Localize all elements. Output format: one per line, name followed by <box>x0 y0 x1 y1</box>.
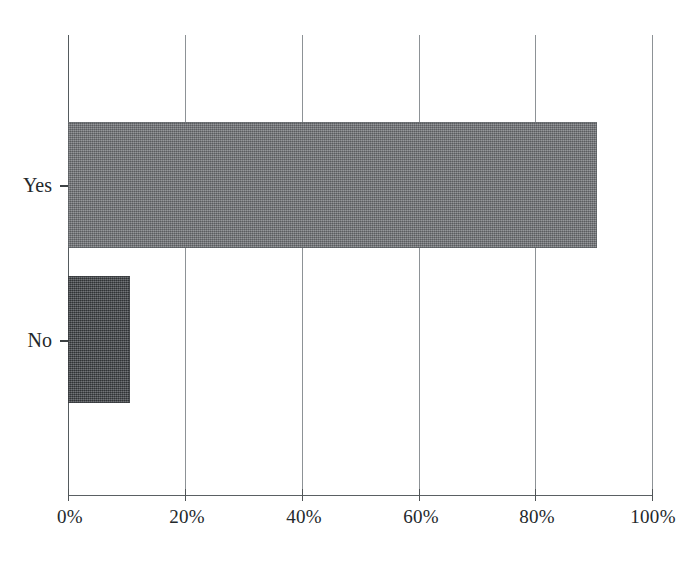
bottom-scan-artifact: . . <box>0 558 694 567</box>
x-tick-mark-0 <box>68 489 69 501</box>
x-tick-mark-80 <box>535 489 536 501</box>
bar-yes <box>68 122 597 248</box>
x-tick-mark-100 <box>652 489 653 501</box>
x-axis-line <box>68 495 653 496</box>
x-tick-label-100: 100% <box>630 506 676 528</box>
y-tick-label-yes: Yes <box>10 174 52 197</box>
bar-chart: Yes No 0% 20% 40% 60% 80% 100% . . <box>0 0 694 567</box>
gridline-80 <box>535 35 536 496</box>
bar-no <box>68 276 130 403</box>
x-tick-mark-40 <box>302 489 303 501</box>
y-axis-line <box>68 35 69 496</box>
x-tick-mark-20 <box>185 489 186 501</box>
x-tick-label-20: 20% <box>169 506 205 528</box>
gridline-40 <box>302 35 303 496</box>
x-tick-label-40: 40% <box>286 506 322 528</box>
gridline-20 <box>185 35 186 496</box>
gridline-60 <box>419 35 420 496</box>
x-tick-mark-60 <box>419 489 420 501</box>
x-tick-label-60: 60% <box>403 506 439 528</box>
x-tick-label-80: 80% <box>519 506 555 528</box>
y-tick-label-no: No <box>10 329 52 352</box>
x-tick-label-0: 0% <box>57 506 83 528</box>
gridline-100 <box>652 35 653 496</box>
